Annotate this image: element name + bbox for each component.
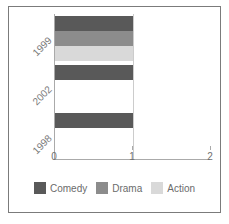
legend-label-action: Action [167,183,195,194]
legend-label-comedy: Comedy [50,183,87,194]
chart-figure: 0 1 2 1999 2002 1998 Comedy Drama Action [0,0,229,224]
xtick-label-2: 2 [207,151,213,162]
plot-area [54,14,210,160]
legend-swatch-drama [96,182,108,194]
bar-segment-1998-comedy [55,113,133,128]
bar-group-1999 [55,14,210,63]
bar-segment-1999-comedy [55,16,133,31]
bar-segment-1999-drama [55,31,133,46]
chart-legend: Comedy Drama Action [0,182,229,194]
xtick-mark-2 [210,146,211,150]
xtick-mark-1 [132,146,133,150]
legend-swatch-comedy [34,182,46,194]
xtick-label-0: 0 [51,151,57,162]
legend-item-drama[interactable]: Drama [96,182,142,194]
bar-group-2002 [55,63,210,112]
bar-segment-2002-comedy [55,65,133,80]
xtick-mark-0 [54,146,55,150]
bar-segment-1999-action [55,46,133,61]
legend-item-comedy[interactable]: Comedy [34,182,87,194]
xtick-label-1: 1 [129,151,135,162]
legend-swatch-action [151,182,163,194]
legend-label-drama: Drama [112,183,142,194]
legend-item-action[interactable]: Action [151,182,195,194]
